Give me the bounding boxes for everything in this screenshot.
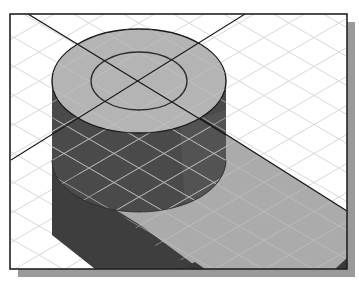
cad-isometric-figure xyxy=(0,0,359,283)
